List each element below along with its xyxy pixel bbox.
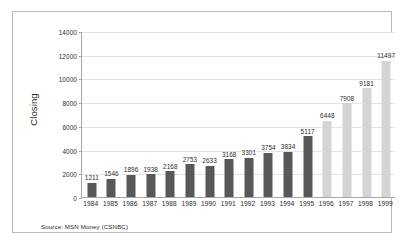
- bar-slot: 1938: [141, 32, 161, 197]
- bar[interactable]: [382, 61, 391, 197]
- bar[interactable]: [362, 88, 371, 197]
- x-axis-tick-label: 1991: [221, 200, 236, 207]
- bar-value-label: 3754: [261, 144, 276, 151]
- bar-slot: 5117: [298, 32, 318, 197]
- bar-slot: 9181: [357, 32, 377, 197]
- y-axis-tick-label: 6000: [33, 123, 77, 130]
- bar[interactable]: [87, 183, 96, 197]
- bar[interactable]: [146, 174, 155, 197]
- bar-slot: 3754: [259, 32, 279, 197]
- chart-frame: Closing 14000120001000080006000400020000…: [12, 11, 392, 233]
- bar-value-label: 7908: [340, 95, 355, 102]
- bar-value-label: 2168: [163, 163, 178, 170]
- y-axis-tick-label: 4000: [33, 147, 77, 154]
- bar-slot: 3168: [219, 32, 239, 197]
- bar-value-label: 6448: [320, 112, 335, 119]
- x-axis-tick-label: 1997: [338, 200, 353, 207]
- x-axis-tick-label: 1988: [162, 200, 177, 207]
- bar[interactable]: [205, 166, 214, 197]
- bar-value-label: 3301: [242, 149, 257, 156]
- bar-value-label: 3834: [281, 143, 296, 150]
- bar[interactable]: [264, 153, 273, 198]
- bar-slot: 2168: [161, 32, 181, 197]
- y-axis-tick-label: 12000: [33, 52, 77, 59]
- y-axis-tick-label: 8000: [33, 100, 77, 107]
- bar-value-label: 1896: [124, 166, 139, 173]
- x-axis-tick-label: 1999: [378, 200, 393, 207]
- bar-value-label: 3168: [222, 151, 237, 158]
- y-axis-tick: [79, 198, 82, 199]
- bar-slot: 3834: [278, 32, 298, 197]
- x-axis-tick-label: 1993: [260, 200, 275, 207]
- x-axis-tick-label: 1987: [142, 200, 157, 207]
- x-axis-tick-label: 1998: [358, 200, 373, 207]
- bar[interactable]: [166, 171, 175, 197]
- source-note: Source: MSN Money (CSNBC): [41, 223, 128, 230]
- bar-value-label: 5117: [301, 128, 315, 135]
- bar-value-label: 1938: [143, 166, 158, 173]
- bar[interactable]: [225, 159, 234, 197]
- bar-value-label: 1211: [85, 174, 99, 181]
- x-axis-tick-label: 1994: [280, 200, 295, 207]
- bar[interactable]: [127, 175, 136, 197]
- bar-value-label: 1546: [104, 170, 119, 177]
- bar[interactable]: [323, 121, 332, 197]
- x-axis-tick-label: 1984: [83, 200, 98, 207]
- bar-slot: 6448: [318, 32, 338, 197]
- bar-value-label: 9181: [359, 80, 374, 87]
- y-axis-tick-label: 10000: [33, 76, 77, 83]
- y-axis-tick-label: 2000: [33, 171, 77, 178]
- bar-slot: 1896: [121, 32, 141, 197]
- bar[interactable]: [342, 103, 351, 197]
- bars-layer: 1211154618961938216827532633316833013754…: [82, 32, 395, 197]
- bar[interactable]: [303, 136, 312, 197]
- y-axis-tick-label: 14000: [33, 29, 77, 36]
- x-axis-tick-label: 1989: [181, 200, 196, 207]
- bar-slot: 2633: [200, 32, 220, 197]
- y-axis-tick-label: 0: [33, 195, 77, 202]
- x-axis-tick-labels: 1984198519861987198819891990199119921993…: [81, 200, 395, 214]
- y-axis-tick-labels: 14000120001000080006000400020000: [31, 32, 77, 198]
- x-axis-tick-label: 1992: [240, 200, 255, 207]
- bar-slot: 1211: [82, 32, 102, 197]
- bar-slot: 11497: [376, 32, 396, 197]
- plot-area: 1211154618961938216827532633316833013754…: [81, 32, 395, 198]
- x-axis-tick-label: 1995: [299, 200, 314, 207]
- bar[interactable]: [107, 179, 116, 197]
- x-axis-tick-label: 1990: [201, 200, 216, 207]
- bar[interactable]: [244, 158, 253, 197]
- bar-value-label: 2753: [183, 156, 198, 163]
- bar-slot: 7908: [337, 32, 357, 197]
- bar-slot: 1546: [102, 32, 122, 197]
- bar-value-label: 11497: [377, 52, 395, 59]
- x-axis-tick-label: 1996: [319, 200, 334, 207]
- x-axis-tick-label: 1985: [103, 200, 118, 207]
- bar-value-label: 2633: [202, 157, 217, 164]
- bar[interactable]: [185, 164, 194, 197]
- bar-slot: 3301: [239, 32, 259, 197]
- bar[interactable]: [284, 152, 293, 197]
- x-axis-tick-label: 1986: [123, 200, 138, 207]
- bar-slot: 2753: [180, 32, 200, 197]
